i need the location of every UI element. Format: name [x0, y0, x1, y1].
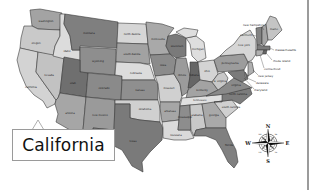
label-illinois: illinois [178, 74, 187, 77]
compass-s: S [266, 158, 270, 164]
label-north-dakota: north dakota [124, 33, 141, 36]
leader-massachusetts [270, 48, 274, 50]
label-new-york: new york [238, 44, 250, 47]
label-virginia: virginia [231, 84, 241, 87]
label-north-carolina: north carolina [229, 93, 247, 96]
label-indiana: indiana [189, 74, 199, 77]
label-west-virginia: w. virginia [213, 80, 227, 83]
label-maine: maine [270, 28, 278, 31]
label-nebraska: nebraska [130, 72, 142, 75]
leader-rhode-island [266, 53, 272, 60]
label-arizona: arizona [65, 112, 75, 115]
label-washington: washington [39, 20, 54, 23]
state-massachusetts[interactable] [257, 45, 270, 50]
callout-maryland: maryland [254, 88, 268, 92]
label-montana: montana [83, 32, 95, 35]
compass-rose-icon: N S E W NE NW SE SW [244, 123, 289, 165]
callout-vermont: vermont [240, 33, 253, 37]
label-idaho: idaho [63, 50, 71, 53]
callout-connecticut: connecticut [264, 67, 281, 71]
label-south-carolina: south carolina [222, 106, 241, 109]
label-georgia: georgia [209, 114, 219, 117]
compass-nw: NW [258, 133, 261, 135]
label-colorado: colorado [98, 87, 110, 90]
compass-sw: SW [259, 151, 262, 154]
label-alabama: alabama [191, 114, 203, 117]
label-wisconsin: wisconsin [171, 45, 184, 48]
label-texas: texas [129, 140, 137, 143]
label-oklahoma: oklahoma [139, 108, 152, 111]
label-kansas: kansas [136, 89, 146, 92]
compass-se: SE [275, 151, 278, 154]
label-pennsylvania: pennsylvania [221, 62, 239, 65]
label-mississippi: mississippi [178, 116, 192, 119]
state-name-callout: California [12, 129, 115, 161]
compass-n: N [266, 123, 271, 129]
label-louisiana: louisiana [170, 134, 182, 137]
label-oregon: oregon [31, 42, 40, 45]
us-map: washington oregon california nevada idah… [0, 0, 310, 190]
label-missouri: missouri [164, 87, 175, 90]
callout-rhode-island: rhode island [273, 59, 290, 63]
state-florida[interactable] [194, 128, 238, 168]
state-vermont[interactable] [256, 27, 262, 45]
label-california: california [25, 86, 37, 89]
compass-e: E [286, 140, 290, 146]
label-ohio: ohio [204, 70, 210, 73]
callout-new-hampshire: new hampshire [243, 23, 265, 27]
callout-massachusetts: massachusetts [275, 48, 297, 52]
label-tennessee: tennessee [193, 99, 207, 102]
label-utah: utah [70, 82, 76, 85]
callout-delaware: delaware [256, 81, 269, 85]
label-florida: florida [225, 144, 234, 147]
label-michigan: michigan [192, 48, 204, 51]
label-nevada: nevada [44, 74, 54, 77]
label-arkansas: arkansas [164, 110, 176, 113]
label-minnesota: minnesota [151, 38, 165, 41]
leader-delaware [247, 78, 256, 82]
label-iowa: iowa [160, 64, 166, 67]
compass-ne: NE [275, 133, 278, 135]
compass-w: W [244, 140, 251, 146]
callout-new-jersey: new jersey [258, 74, 273, 78]
label-wyoming: wyoming [92, 60, 104, 63]
state-new-jersey[interactable] [248, 62, 254, 76]
frame-border [307, 0, 309, 190]
label-kentucky: kentucky [196, 89, 208, 92]
label-new-mexico: new mexico [92, 114, 108, 117]
label-south-dakota: south dakota [124, 53, 141, 56]
callout-state-name: California [22, 135, 105, 155]
